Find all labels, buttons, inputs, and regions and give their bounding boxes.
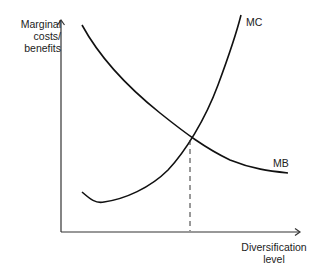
y-axis-label: Marginal costs/ benefits bbox=[0, 18, 61, 54]
y-axis-label-line1: Marginal bbox=[0, 18, 61, 30]
y-axis-label-line2: costs/ bbox=[0, 30, 61, 42]
mb-curve bbox=[82, 25, 288, 173]
mc-curve bbox=[82, 15, 241, 202]
x-axis-label-line2: level bbox=[236, 253, 312, 265]
y-axis-label-line3: benefits bbox=[0, 42, 61, 54]
mc-label: MC bbox=[246, 16, 262, 28]
x-axis-label-line1: Diversification bbox=[236, 241, 312, 253]
x-axis-label: Diversification level bbox=[236, 241, 312, 265]
mb-label: MB bbox=[273, 157, 289, 169]
